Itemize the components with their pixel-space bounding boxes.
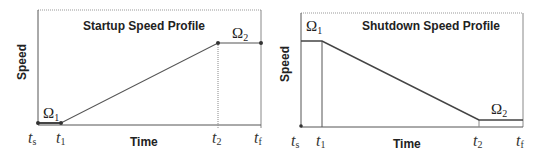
point-ts [36,121,40,125]
y-axis-label: Speed [278,46,292,82]
point-tf [259,41,263,45]
tick-ts: ts [28,129,36,147]
x-axis-label: Time [130,135,158,149]
omega2-label: Ω2 [232,25,248,43]
tick-t1: t1 [56,129,65,147]
point-t2 [216,41,220,45]
speed-profiles-figure: Startup Speed Profile Speed Time Ω1 Ω2 t… [0,0,548,158]
chart-title: Startup Speed Profile [83,19,205,33]
shutdown-chart: Shutdown Speed Profile Speed Time Ω1 Ω2 … [278,13,524,151]
startup-chart: Startup Speed Profile Speed Time Ω1 Ω2 t… [15,10,263,149]
chart-title: Shutdown Speed Profile [362,19,500,33]
tick-t1: t1 [316,132,325,150]
tick-tf: tf [516,132,524,150]
omega1-label: Ω1 [306,18,322,36]
startup-profile-line [38,43,261,123]
tick-t2: t2 [212,129,221,147]
tick-t2: t2 [473,132,482,150]
tick-ts: ts [291,132,299,150]
omega1-label: Ω1 [43,105,59,123]
tick-tf: tf [254,129,262,147]
omega2-label: Ω2 [491,101,507,119]
x-axis-label: Time [393,137,421,151]
shutdown-profile-line [301,41,523,120]
point-ts [299,124,303,128]
point-t1 [59,121,63,125]
y-axis-label: Speed [15,44,29,80]
